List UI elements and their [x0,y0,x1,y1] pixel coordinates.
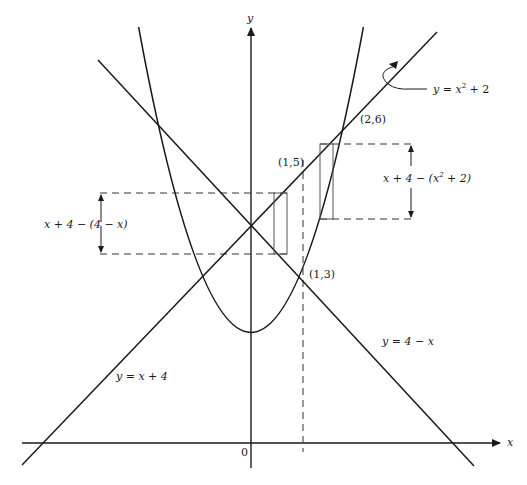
y-axis-label: y [246,12,254,25]
diagram-canvas: y x 0 y = x2 + 2 y = x + 4 y = 4 − x (2,… [0,0,527,485]
strip-rectangle-right [320,144,333,219]
point-label-1-5: (1,5) [278,156,304,169]
line-y-equals-4-minus-x [98,60,474,466]
point-label-1-3: (1,3) [309,268,335,281]
origin-label: 0 [241,446,248,459]
point-label-2-6: (2,6) [360,113,386,126]
parabola-label-leader [383,66,427,89]
strip-rectangle-left [274,193,287,254]
line-rising-label: y = x + 4 [115,370,168,383]
parabola-label: y = x2 + 2 [432,82,489,96]
x-axis-label: x [507,436,514,449]
line-falling-label: y = 4 − x [381,335,435,348]
line-y-equals-x-plus-4 [22,32,437,465]
left-height-annotation: x + 4 − (4 − x) [44,218,128,231]
right-height-annotation: x + 4 − (x2 + 2) [383,171,471,185]
